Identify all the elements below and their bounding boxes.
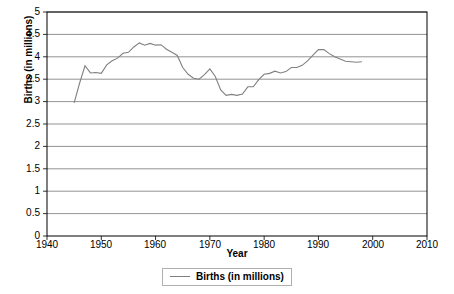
y-tick-label: 4.5: [0, 29, 40, 39]
y-tick-label: 5: [0, 7, 40, 17]
y-tick-label: 3: [0, 96, 40, 106]
legend-box: Births (in millions): [162, 268, 292, 286]
y-tick-marks: [43, 12, 47, 236]
x-axis-label: Year: [47, 248, 427, 259]
data-series-line: [74, 43, 362, 103]
y-tick-label: 0.5: [0, 208, 40, 218]
y-tick-label: 1: [0, 186, 40, 196]
y-tick-label: 4: [0, 52, 40, 62]
y-tick-label: 1.5: [0, 164, 40, 174]
chart-container: Births (in millions) 5 4.5 4 3.5 3 2.5 2…: [0, 0, 454, 294]
legend-entry-label: Births (in millions): [196, 271, 284, 282]
y-tick-label: 3.5: [0, 74, 40, 84]
y-tick-label: 2.5: [0, 119, 40, 129]
y-tick-label: 2: [0, 141, 40, 151]
legend: Births (in millions): [0, 268, 454, 286]
legend-line-swatch-icon: [170, 276, 190, 277]
gridlines: [47, 12, 427, 214]
